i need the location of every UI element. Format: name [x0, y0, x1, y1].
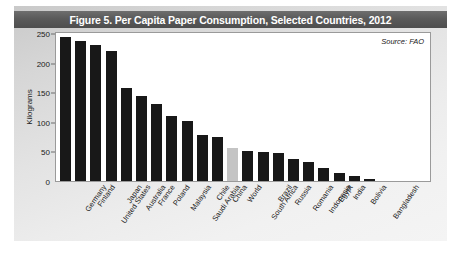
- figure-panel: Figure 5. Per Capita Paper Consumption, …: [14, 6, 447, 241]
- bar-bolivia: [349, 176, 360, 181]
- bar-brazil: [258, 152, 269, 181]
- y-tick-label-200: 200: [37, 59, 50, 68]
- bar-germany: [60, 37, 71, 181]
- bar-egypt: [318, 168, 329, 181]
- bar-saudi-arabia: [182, 121, 193, 181]
- bar-malaysia: [166, 116, 177, 181]
- y-tick-label-50: 50: [41, 148, 50, 157]
- x-tick-label-malaysia: Malaysia: [189, 183, 213, 212]
- bar-chile: [197, 135, 208, 181]
- plot-area: Source: FAO: [55, 32, 431, 182]
- y-axis-label: Kilograms: [25, 72, 34, 142]
- bar-poland: [151, 104, 162, 181]
- bar-australia: [121, 88, 132, 181]
- y-tick-label-250: 250: [37, 30, 50, 39]
- x-tick-label-bangladesh: Bangladesh: [391, 183, 421, 221]
- bar-indonesia: [303, 162, 314, 181]
- y-axis: Kilograms 050100150200250: [14, 32, 55, 182]
- y-tick-label-0: 0: [46, 178, 50, 187]
- page-title: Figure 5. Per Capita Paper Consumption, …: [70, 14, 392, 26]
- bar-series: [56, 33, 430, 181]
- bar-india: [334, 173, 345, 181]
- x-tick-label-world: World: [245, 183, 264, 204]
- bar-france: [136, 96, 147, 181]
- x-tick-label-bolivia: Bolivia: [368, 183, 388, 206]
- bar-russia: [273, 153, 284, 181]
- bar-bangladesh: [364, 179, 375, 181]
- x-tick-label-india: India: [351, 183, 368, 201]
- y-tick-label-100: 100: [37, 118, 50, 127]
- bar-united-states: [90, 45, 101, 181]
- y-tick-label-150: 150: [37, 89, 50, 98]
- bar-china: [212, 137, 223, 181]
- figure-title-band: Figure 5. Per Capita Paper Consumption, …: [14, 11, 447, 28]
- bar-south-africa: [242, 151, 253, 181]
- bar-finland: [75, 41, 86, 181]
- x-axis-labels: GermanyFinlandUnited StatesJapanAustrali…: [55, 183, 431, 241]
- bar-romania: [288, 159, 299, 181]
- bar-world: [227, 148, 238, 181]
- bar-japan: [106, 51, 117, 181]
